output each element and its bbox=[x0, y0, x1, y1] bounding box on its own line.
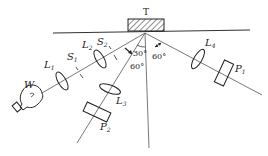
lens-l1-label: L1 bbox=[43, 59, 54, 71]
target-label: T bbox=[143, 7, 149, 17]
lens-l2-label: L2 bbox=[81, 39, 93, 51]
angle-label-60-right: 60° bbox=[152, 52, 166, 61]
reflected-beam-p1 bbox=[145, 33, 262, 95]
slit-s1-lower bbox=[80, 74, 83, 78]
slit-s2-lower bbox=[114, 55, 117, 60]
lamp-label: W bbox=[24, 79, 35, 90]
angle-label-30: 30° bbox=[133, 49, 147, 58]
polarizer-p2-label: P2 bbox=[99, 121, 111, 133]
lens-l4-label: L4 bbox=[204, 37, 216, 49]
lens-l3-label: L3 bbox=[115, 95, 127, 107]
optical-setup-diagram: T W L1 S1 L2 S2 L3 P2 L4 P1 30° 60° 60 bbox=[0, 0, 268, 156]
polarizer-p1 bbox=[214, 60, 233, 86]
angle-label-60-left: 60° bbox=[130, 62, 144, 71]
polarizer-p1-label: P1 bbox=[234, 63, 246, 75]
slit-s1-upper bbox=[76, 67, 78, 70]
lens-l4 bbox=[189, 47, 207, 70]
slit-s2-label: S2 bbox=[97, 36, 108, 48]
polarizer-p2 bbox=[83, 102, 111, 122]
slit-s1-label: S1 bbox=[67, 51, 78, 63]
angle-arc-left bbox=[137, 45, 145, 47]
slit-s2-upper bbox=[109, 46, 111, 49]
target-sample bbox=[128, 19, 164, 31]
